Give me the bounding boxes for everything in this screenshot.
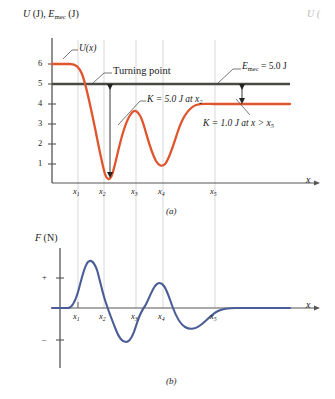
panel-a-xtick-label-x5: x5 (210, 187, 217, 196)
panel-a-xtick-label-x3: x3 (131, 187, 138, 196)
panel-b-x-axis-arrow (314, 305, 320, 310)
annotation-ux: U(x) (79, 44, 96, 54)
panel-b-xtick-label-x1: x1 (73, 312, 80, 321)
panel-a-x-axis-arrow (314, 180, 320, 185)
gridlines-group (78, 40, 215, 308)
panel-a-ytick-label-5: 5 (38, 79, 42, 88)
annotation-k1: K = 1.0 J at x > x5 (203, 119, 274, 129)
leader-turning-point (93, 73, 112, 83)
panel-a-ytick-label-3: 3 (38, 119, 42, 128)
annotation-k5: K = 5.0 J at x2 (147, 95, 203, 105)
panel-b-xtick-label-x5: x5 (210, 312, 217, 321)
panel-b-ylabel-f: F (35, 232, 41, 243)
panel-b-xtick-label-x4: x4 (158, 312, 165, 321)
panel-a-xtick-label-x2: x2 (99, 187, 106, 196)
physics-figure: U (J), Emec (J) 6 5 4 3 2 1 x1 x2 x3 x4 … (0, 0, 335, 399)
panel-b-xtick-label-x2: x2 (99, 312, 106, 321)
panel-b-x-axis-label: x (306, 300, 310, 310)
panel-a-ylabel-units2: (J) (68, 8, 79, 19)
panel-b-caption: (b) (166, 377, 177, 386)
panel-b-ytick-label-plus: + (42, 273, 47, 282)
panel-a-caption: (a) (166, 207, 177, 216)
panel-a-ytick-label-1: 1 (38, 159, 42, 168)
panel-a-xtick-label-x1: x1 (73, 187, 80, 196)
panel-a-x-axis-label: x (306, 175, 310, 185)
leader-emec (218, 69, 241, 83)
panel-a-ytick-label-2: 2 (38, 139, 42, 148)
panel-a-ylabel-units1: (J), (33, 8, 46, 19)
panel-b-group (52, 248, 320, 368)
panel-a-ylabel-u: U (23, 8, 30, 19)
panel-b-ylabel-units: (N) (44, 232, 58, 243)
leader-k1 (236, 99, 250, 115)
annotation-emec: Emec = 5.0 J (242, 62, 287, 72)
panel-b-ytick-label-minus: – (42, 335, 46, 344)
panel-b-y-axis-label: F (N) (35, 233, 58, 243)
panel-a-ytick-label-6: 6 (38, 59, 42, 68)
panel-a-xtick-label-x4: x4 (158, 187, 165, 196)
adjacent-figure-fragment: U ( (307, 9, 320, 19)
panel-b-xtick-label-x3: x3 (131, 312, 138, 321)
leader-ux (63, 50, 78, 59)
panel-a-ylabel-emec-sub: mec (54, 13, 65, 20)
figure-canvas (0, 0, 335, 399)
annotation-turning-point: Turning point (113, 66, 171, 77)
force-curve (52, 261, 290, 342)
panel-a-y-axis-label: U (J), Emec (J) (23, 9, 79, 19)
panel-a-ytick-label-4: 4 (38, 99, 42, 108)
